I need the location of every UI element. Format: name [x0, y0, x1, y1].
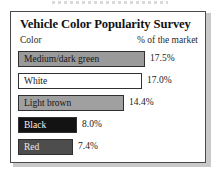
bar-label: Red	[24, 141, 39, 154]
column-header-color: Color	[20, 35, 42, 45]
bar-label: Black	[24, 119, 46, 132]
bar-row: Black8.0%	[18, 117, 200, 135]
bar-label: Light brown	[24, 97, 71, 110]
bar-value: 17.5%	[150, 52, 175, 65]
chart-screenshot: Vehicle Color Popularity Survey Color % …	[0, 0, 219, 175]
chart-title: Vehicle Color Popularity Survey	[20, 17, 200, 32]
bar-value: 8.0%	[82, 118, 102, 131]
bar-3: Black	[18, 117, 77, 133]
bar-1: White	[18, 73, 142, 89]
bar-row: Medium/dark green17.5%	[18, 51, 200, 69]
bar-label: Medium/dark green	[24, 53, 99, 66]
bar-row: White17.0%	[18, 73, 200, 91]
bar-2: Light brown	[18, 95, 124, 111]
bar-list: Medium/dark green17.5%White17.0%Light br…	[18, 51, 200, 161]
bar-4: Red	[18, 139, 73, 155]
bar-0: Medium/dark green	[18, 51, 145, 67]
bar-value: 7.4%	[78, 140, 98, 153]
bar-value: 14.4%	[129, 96, 154, 109]
bar-label: White	[24, 75, 47, 88]
column-header-percent: % of the market	[137, 35, 198, 45]
survey-chart-card: Vehicle Color Popularity Survey Color % …	[10, 11, 206, 163]
column-header-row: Color % of the market	[20, 35, 198, 48]
bar-row: Red7.4%	[18, 139, 200, 157]
scan-artifact	[52, 1, 168, 4]
bar-row: Light brown14.4%	[18, 95, 200, 113]
bar-value: 17.0%	[147, 74, 172, 87]
